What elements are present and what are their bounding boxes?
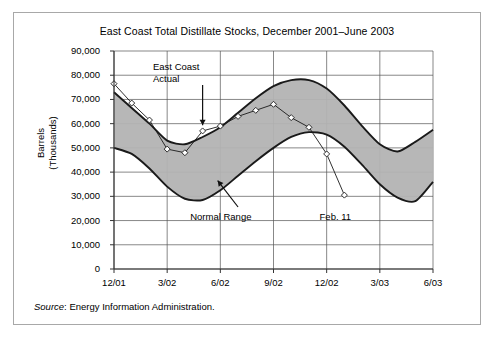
source-text: Energy Information Administration. <box>67 301 215 312</box>
chart-plot <box>14 13 482 326</box>
annotation-feb-11: Feb. 11 <box>320 211 352 223</box>
source-note: Source: Energy Information Administratio… <box>34 301 215 312</box>
annotation-east-coast-actual: East Coast Actual <box>153 61 199 84</box>
annotation-normal-range: Normal Range <box>190 211 251 223</box>
figure-frame: East Coast Total Distillate Stocks, Dece… <box>13 12 481 325</box>
source-label: Source <box>34 301 64 312</box>
